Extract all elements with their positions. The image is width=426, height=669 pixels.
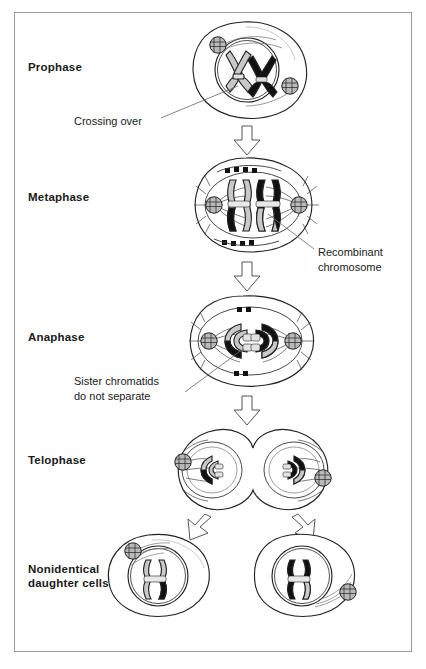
arrow-telophase-to-daughter-left	[188, 514, 211, 540]
cell-prophase	[161, 22, 307, 119]
meiosis-illustration	[0, 0, 426, 669]
cell-daughter-left	[108, 534, 209, 616]
arrow-anaphase-to-telophase	[234, 396, 260, 425]
figure-canvas: Prophase Metaphase Anaphase Telophase No…	[0, 0, 426, 669]
cell-metaphase	[194, 158, 319, 252]
cell-telophase	[175, 429, 331, 509]
cell-anaphase	[185, 296, 314, 392]
arrow-metaphase-to-anaphase	[234, 262, 260, 291]
arrow-prophase-to-metaphase	[234, 126, 260, 155]
cell-daughter-right	[254, 534, 356, 616]
